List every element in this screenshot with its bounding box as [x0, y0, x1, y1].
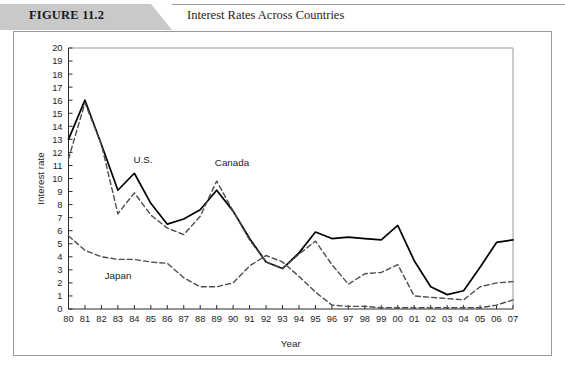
y-tick-label: 17 — [52, 83, 62, 93]
x-tick-label: 90 — [228, 314, 238, 324]
series-label-us: U.S. — [133, 154, 152, 165]
y-tick-label: 5 — [57, 239, 62, 249]
y-tick-label: 8 — [57, 200, 62, 210]
y-tick-label: 15 — [52, 109, 62, 119]
x-tick-label: 86 — [162, 314, 172, 324]
x-tick-label: 93 — [277, 314, 287, 324]
y-tick-label: 7 — [57, 213, 62, 223]
series-label-japan: Japan — [105, 270, 132, 281]
x-axis-ticks: 8081828384858687888990919293949596979899… — [63, 305, 518, 324]
x-tick-label: 92 — [261, 314, 271, 324]
x-tick-label: 94 — [294, 314, 304, 324]
x-tick-label: 95 — [310, 314, 320, 324]
x-tick-label: 05 — [475, 314, 485, 324]
x-tick-label: 84 — [129, 314, 139, 324]
series-line-japan — [69, 236, 514, 308]
x-tick-label: 01 — [409, 314, 419, 324]
x-tick-label: 96 — [327, 314, 337, 324]
x-tick-label: 87 — [179, 314, 189, 324]
y-tick-label: 6 — [57, 226, 62, 236]
line-chart: 01234567891011121314151617181920 8081828… — [0, 0, 565, 367]
x-tick-label: 98 — [360, 314, 370, 324]
x-tick-label: 83 — [113, 314, 123, 324]
y-tick-label: 18 — [52, 70, 62, 80]
y-tick-label: 0 — [57, 304, 62, 314]
chart-series-group — [69, 100, 514, 307]
x-tick-label: 91 — [244, 314, 254, 324]
x-tick-label: 02 — [426, 314, 436, 324]
x-tick-label: 85 — [146, 314, 156, 324]
x-tick-label: 07 — [508, 314, 518, 324]
y-tick-label: 4 — [57, 252, 62, 262]
y-tick-label: 9 — [57, 187, 62, 197]
series-line-canada — [69, 103, 514, 300]
y-tick-label: 16 — [52, 96, 62, 106]
y-axis-title: Interest rate — [35, 152, 46, 205]
y-axis-ticks: 01234567891011121314151617181920 — [52, 43, 72, 314]
y-tick-label: 13 — [52, 135, 62, 145]
y-tick-label: 14 — [52, 122, 62, 132]
series-label-canada: Canada — [215, 157, 250, 168]
y-tick-label: 11 — [53, 161, 63, 171]
x-tick-label: 81 — [80, 314, 90, 324]
x-tick-label: 80 — [63, 314, 73, 324]
figure-container: FIGURE 11.2 Interest Rates Across Countr… — [0, 0, 565, 367]
series-line-us — [69, 100, 514, 294]
x-tick-label: 04 — [458, 314, 468, 324]
y-tick-label: 20 — [52, 43, 62, 53]
y-tick-label: 19 — [52, 56, 62, 66]
y-tick-label: 2 — [57, 278, 62, 288]
y-tick-label: 10 — [52, 174, 62, 184]
x-tick-label: 89 — [211, 314, 221, 324]
x-tick-label: 03 — [442, 314, 452, 324]
x-tick-label: 00 — [393, 314, 403, 324]
chart-axes — [69, 48, 514, 309]
x-tick-label: 88 — [195, 314, 205, 324]
y-tick-label: 3 — [57, 265, 62, 275]
x-tick-label: 97 — [343, 314, 353, 324]
y-tick-label: 12 — [52, 148, 62, 158]
chart-svg: 01234567891011121314151617181920 8081828… — [0, 0, 565, 367]
x-tick-label: 06 — [491, 314, 501, 324]
x-tick-label: 82 — [96, 314, 106, 324]
series-annotations: U.S.CanadaJapan — [105, 154, 250, 281]
y-tick-label: 1 — [57, 291, 62, 301]
x-axis-title: Year — [281, 338, 302, 349]
x-tick-label: 99 — [376, 314, 386, 324]
